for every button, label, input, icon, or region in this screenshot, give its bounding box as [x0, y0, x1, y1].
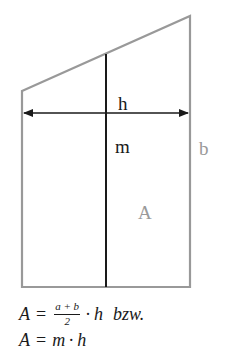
- formula1-dot: ·: [85, 304, 91, 325]
- formula1-bzw: bzw.: [113, 304, 144, 325]
- formula2-h: h: [77, 330, 86, 351]
- formula1-fraction: a + b 2: [54, 301, 80, 327]
- formula2-m: m: [52, 330, 65, 351]
- formula-area-trapezoid: A = a + b 2 · h bzw.: [19, 301, 144, 327]
- formula2-lhs: A: [19, 330, 30, 351]
- label-b: b: [199, 139, 209, 158]
- fraction-numerator: a + b: [54, 301, 80, 315]
- label-m: m: [115, 137, 130, 156]
- formula-area-midline: A = m · h: [19, 330, 86, 351]
- formula2-dot: ·: [68, 330, 74, 351]
- formula1-h: h: [94, 304, 103, 325]
- fraction-denominator: 2: [64, 315, 70, 328]
- trapezoid-figure: [0, 0, 226, 300]
- label-area-A: A: [138, 203, 152, 222]
- formula1-lhs: A: [19, 304, 30, 325]
- label-h: h: [118, 94, 128, 113]
- formula1-equals: =: [36, 304, 46, 325]
- formula2-equals: =: [36, 330, 46, 351]
